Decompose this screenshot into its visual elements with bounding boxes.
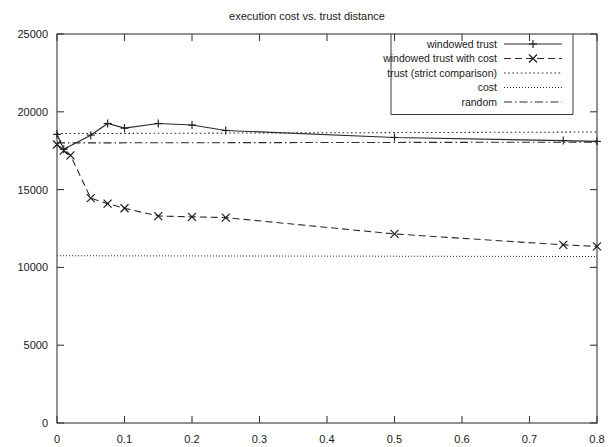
legend-item-label: trust (strict comparison) [387, 67, 497, 79]
x-tick-label: 0.6 [454, 433, 469, 445]
x-tick-label: 0.3 [252, 433, 267, 445]
x-tick-label: 0.8 [589, 433, 604, 445]
chart-container: execution cost vs. trust distance 050001… [0, 0, 614, 447]
chart-background [0, 0, 614, 447]
chart-title: execution cost vs. trust distance [229, 10, 385, 22]
y-tick-label: 10000 [17, 261, 48, 273]
y-tick-label: 20000 [17, 106, 48, 118]
legend-item-label: windowed trust [426, 38, 497, 50]
legend-item-label: random [461, 96, 497, 108]
legend-item-label: windowed trust with cost [382, 52, 497, 64]
x-tick-label: 0.7 [522, 433, 537, 445]
legend-item-label: cost [478, 81, 497, 93]
x-tick-label: 0 [54, 433, 60, 445]
y-tick-label: 25000 [17, 28, 48, 40]
y-tick-label: 15000 [17, 184, 48, 196]
execution-cost-chart: execution cost vs. trust distance 050001… [0, 0, 614, 447]
y-tick-label: 0 [42, 417, 48, 429]
x-tick-label: 0.4 [319, 433, 334, 445]
x-tick-label: 0.2 [184, 433, 199, 445]
x-tick-label: 0.5 [387, 433, 402, 445]
y-tick-label: 5000 [24, 339, 48, 351]
x-tick-label: 0.1 [117, 433, 132, 445]
